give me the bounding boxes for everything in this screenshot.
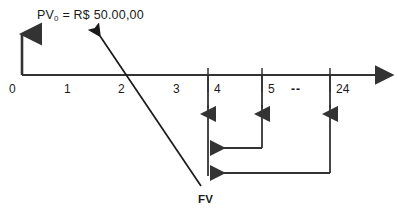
fv-to-pv-pointer-arrow	[100, 36, 201, 186]
pv-label-value: = R$ 50.00,00	[59, 8, 144, 22]
tick-label-3: 3	[173, 83, 180, 95]
pv-label: PV0 = R$ 50.00,00	[37, 9, 144, 22]
tick-label-4: 4	[214, 83, 221, 95]
timeline-ellipsis-marker: --	[291, 83, 301, 95]
timeline-graphic	[0, 0, 397, 215]
cash-flow-timeline-diagram: PV0 = R$ 50.00,00 0 1 2 3 4 5 -- 24 FV	[0, 0, 397, 215]
fv-label: FV	[198, 194, 213, 206]
pv-label-subscript: 0	[54, 14, 59, 23]
tick-label-5: 5	[268, 83, 275, 95]
tick-label-2: 2	[118, 83, 125, 95]
pv-label-prefix: PV	[37, 8, 54, 22]
tick-label-1: 1	[64, 83, 71, 95]
tick-label-24: 24	[336, 83, 349, 95]
tick-label-0: 0	[9, 83, 16, 95]
